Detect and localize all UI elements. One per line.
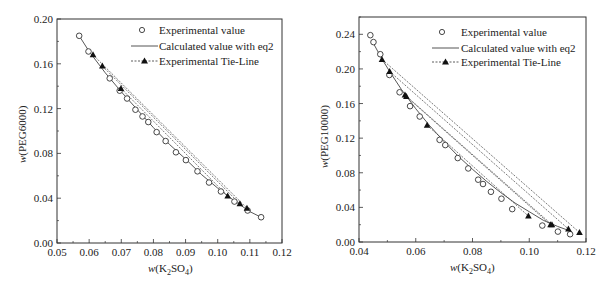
experimental-point-circle-icon xyxy=(371,39,377,45)
experimental-point-circle-icon xyxy=(417,114,423,120)
experimental-point-circle-icon xyxy=(173,149,179,155)
x-tick-label: 0.06 xyxy=(406,245,426,257)
x-tick-label: 0.10 xyxy=(520,245,540,257)
experimental-point-circle-icon xyxy=(475,177,481,183)
tie-line xyxy=(121,88,228,196)
y-tick-label: 0.20 xyxy=(34,13,54,25)
experimental-point-circle-icon xyxy=(145,119,151,125)
legend-triangle-icon xyxy=(141,58,148,64)
x-tick-label: 0.09 xyxy=(176,246,196,258)
tie-line xyxy=(102,66,240,204)
experimental-point-circle-icon xyxy=(368,32,374,38)
tie-line xyxy=(405,95,552,225)
legend: Experimental value Calculated value with… xyxy=(131,24,274,67)
experimental-point-circle-icon xyxy=(195,169,201,175)
y-tick-label: 0.24 xyxy=(336,28,356,40)
experimental-point-circle-icon xyxy=(442,142,448,148)
legend-triangle-icon xyxy=(442,59,449,65)
legend-circle-icon xyxy=(139,27,144,32)
experimental-point-circle-icon xyxy=(397,89,403,95)
x-tick-label: 0.10 xyxy=(208,246,228,258)
experimental-point-circle-icon xyxy=(76,33,82,39)
tie-line xyxy=(390,72,569,230)
experimental-point-circle-icon xyxy=(154,129,160,135)
experimental-point-circle-icon xyxy=(407,103,413,109)
y-tick-label: 0.08 xyxy=(34,147,54,159)
y-tick-label: 0.12 xyxy=(336,132,355,144)
experimental-point-circle-icon xyxy=(232,199,238,205)
chart-right-peg10000: 0.040.060.080.100.12 0.000.040.080.120.1… xyxy=(318,17,596,276)
experimental-point-circle-icon xyxy=(258,214,264,220)
y-tick-label: 0.04 xyxy=(336,201,356,213)
experimental-point-circle-icon xyxy=(124,96,130,102)
y-tick-label: 0.12 xyxy=(34,103,53,115)
y-tick-label: 0.16 xyxy=(34,58,54,70)
experimental-point-circle-icon xyxy=(488,189,494,195)
x-tick-label: 0.12 xyxy=(576,245,595,257)
y-axis-label: w(PEG10000) xyxy=(318,105,331,168)
experimental-point-circle-icon xyxy=(465,166,471,172)
y-tick-label: 0.00 xyxy=(34,237,54,249)
x-tick-label: 0.07 xyxy=(112,246,132,258)
y-tick-label: 0.04 xyxy=(34,192,54,204)
experimental-point-circle-icon xyxy=(107,76,113,82)
tie-line-end-triangle-icon xyxy=(565,226,572,232)
x-tick-label: 0.12 xyxy=(272,246,291,258)
y-tick-label: 0.08 xyxy=(336,167,356,179)
y-tick-label: 0.16 xyxy=(336,98,356,110)
legend-label-calculated: Calculated value with eq2 xyxy=(461,42,576,54)
x-tick-label: 0.11 xyxy=(240,246,259,258)
legend: Experimental value Calculated value with… xyxy=(432,26,576,68)
tie-line-end-triangle-icon xyxy=(525,213,532,219)
x-axis-ticks: 0.040.060.080.100.12 xyxy=(349,238,595,257)
experimental-point-circle-icon xyxy=(480,181,486,187)
tie-line-end-triangle-icon xyxy=(224,192,231,198)
tie-line xyxy=(382,59,579,232)
experimental-point-circle-icon xyxy=(555,229,561,235)
tie-line xyxy=(93,55,247,208)
tie-line-end-triangle-icon xyxy=(386,68,393,74)
experimental-point-circle-icon xyxy=(567,231,573,237)
x-tick-label: 0.08 xyxy=(463,245,483,257)
experimental-point-circle-icon xyxy=(455,155,461,161)
experimental-point-circle-icon xyxy=(437,137,443,143)
tie-line-end-triangle-icon xyxy=(576,229,583,235)
experimental-point-circle-icon xyxy=(540,223,546,229)
x-axis-ticks: 0.050.060.070.080.090.100.110.12 xyxy=(47,239,291,258)
chart-left-peg6000: 0.050.060.070.080.090.100.110.12 0.000.0… xyxy=(16,13,292,277)
legend-label-experimental: Experimental value xyxy=(159,24,245,36)
legend-label-tieline: Experimental Tie-Line xyxy=(461,56,561,68)
experimental-point-circle-icon xyxy=(86,49,92,55)
experimental-point-circle-icon xyxy=(140,114,146,120)
experimental-point-circle-icon xyxy=(218,189,224,195)
x-axis-label: w(K2SO4) xyxy=(450,261,495,276)
x-tick-label: 0.06 xyxy=(80,246,100,258)
legend-label-tieline: Experimental Tie-Line xyxy=(159,55,259,67)
x-tick-label: 0.08 xyxy=(144,246,164,258)
experimental-point-circle-icon xyxy=(183,157,189,163)
y-tick-label: 0.00 xyxy=(336,236,356,248)
experimental-point-circle-icon xyxy=(499,196,505,202)
tie-line-end-triangle-icon xyxy=(424,122,431,128)
experimental-point-circle-icon xyxy=(206,180,212,186)
experimental-point-circle-icon xyxy=(163,138,169,144)
experimental-point-circle-icon xyxy=(133,107,139,113)
legend-circle-icon xyxy=(439,29,444,34)
legend-label-calculated: Calculated value with eq2 xyxy=(159,40,274,52)
calculated-curve xyxy=(373,43,572,232)
tie-line xyxy=(406,97,550,225)
y-tick-label: 0.20 xyxy=(336,63,356,75)
legend-label-experimental: Experimental value xyxy=(461,26,547,38)
experimental-point-circle-icon xyxy=(377,51,383,57)
experimental-point-circle-icon xyxy=(509,206,515,212)
x-axis-label: w(K2SO4) xyxy=(148,262,193,277)
figure: 0.050.060.070.080.090.100.110.12 0.000.0… xyxy=(0,0,611,283)
y-axis-label: w(PEG6000) xyxy=(16,105,29,163)
